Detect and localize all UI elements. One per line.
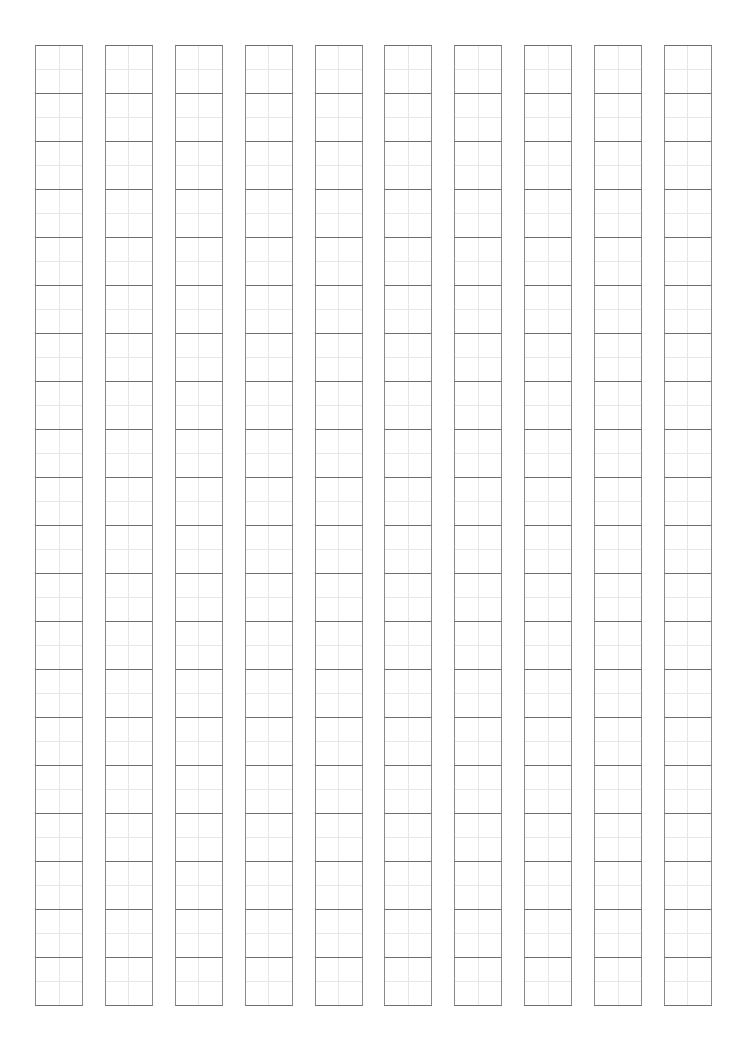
manuscript-cell[interactable] bbox=[664, 381, 712, 429]
manuscript-cell[interactable] bbox=[35, 813, 83, 861]
manuscript-cell[interactable] bbox=[594, 45, 642, 93]
manuscript-cell[interactable] bbox=[594, 141, 642, 189]
manuscript-cell[interactable] bbox=[105, 909, 153, 957]
manuscript-cell[interactable] bbox=[524, 525, 572, 573]
manuscript-cell[interactable] bbox=[524, 141, 572, 189]
manuscript-cell[interactable] bbox=[175, 813, 223, 861]
manuscript-cell[interactable] bbox=[384, 189, 432, 237]
manuscript-cell[interactable] bbox=[454, 333, 502, 381]
manuscript-cell[interactable] bbox=[105, 189, 153, 237]
manuscript-cell[interactable] bbox=[245, 189, 293, 237]
manuscript-cell[interactable] bbox=[384, 669, 432, 717]
manuscript-cell[interactable] bbox=[315, 237, 363, 285]
manuscript-cell[interactable] bbox=[384, 285, 432, 333]
manuscript-cell[interactable] bbox=[594, 381, 642, 429]
manuscript-cell[interactable] bbox=[175, 93, 223, 141]
manuscript-cell[interactable] bbox=[664, 861, 712, 909]
manuscript-cell[interactable] bbox=[315, 813, 363, 861]
manuscript-cell[interactable] bbox=[315, 621, 363, 669]
manuscript-cell[interactable] bbox=[664, 285, 712, 333]
writing-column-5[interactable] bbox=[315, 45, 363, 1006]
manuscript-cell[interactable] bbox=[35, 237, 83, 285]
manuscript-cell[interactable] bbox=[105, 957, 153, 1006]
manuscript-cell[interactable] bbox=[524, 621, 572, 669]
manuscript-cell[interactable] bbox=[454, 477, 502, 525]
manuscript-cell[interactable] bbox=[35, 717, 83, 765]
manuscript-cell[interactable] bbox=[175, 189, 223, 237]
manuscript-cell[interactable] bbox=[175, 717, 223, 765]
manuscript-cell[interactable] bbox=[524, 765, 572, 813]
manuscript-cell[interactable] bbox=[175, 381, 223, 429]
manuscript-cell[interactable] bbox=[664, 45, 712, 93]
manuscript-cell[interactable] bbox=[245, 285, 293, 333]
manuscript-cell[interactable] bbox=[35, 621, 83, 669]
manuscript-cell[interactable] bbox=[245, 669, 293, 717]
writing-column-2[interactable] bbox=[105, 45, 153, 1006]
manuscript-cell[interactable] bbox=[245, 957, 293, 1006]
manuscript-cell[interactable] bbox=[594, 525, 642, 573]
manuscript-cell[interactable] bbox=[594, 669, 642, 717]
manuscript-cell[interactable] bbox=[454, 525, 502, 573]
manuscript-cell[interactable] bbox=[664, 477, 712, 525]
manuscript-cell[interactable] bbox=[524, 813, 572, 861]
manuscript-cell[interactable] bbox=[315, 93, 363, 141]
writing-column-1[interactable] bbox=[35, 45, 83, 1006]
manuscript-cell[interactable] bbox=[454, 813, 502, 861]
manuscript-cell[interactable] bbox=[384, 957, 432, 1006]
manuscript-cell[interactable] bbox=[175, 573, 223, 621]
manuscript-cell[interactable] bbox=[664, 669, 712, 717]
manuscript-cell[interactable] bbox=[35, 381, 83, 429]
manuscript-cell[interactable] bbox=[454, 669, 502, 717]
manuscript-cell[interactable] bbox=[35, 573, 83, 621]
manuscript-cell[interactable] bbox=[524, 429, 572, 477]
manuscript-cell[interactable] bbox=[454, 285, 502, 333]
manuscript-cell[interactable] bbox=[35, 429, 83, 477]
manuscript-cell[interactable] bbox=[245, 429, 293, 477]
manuscript-cell[interactable] bbox=[664, 621, 712, 669]
manuscript-cell[interactable] bbox=[35, 285, 83, 333]
manuscript-cell[interactable] bbox=[384, 525, 432, 573]
manuscript-cell[interactable] bbox=[594, 957, 642, 1006]
manuscript-cell[interactable] bbox=[524, 285, 572, 333]
manuscript-cell[interactable] bbox=[35, 525, 83, 573]
manuscript-cell[interactable] bbox=[245, 477, 293, 525]
manuscript-cell[interactable] bbox=[105, 573, 153, 621]
manuscript-cell[interactable] bbox=[594, 285, 642, 333]
manuscript-cell[interactable] bbox=[105, 861, 153, 909]
manuscript-cell[interactable] bbox=[664, 813, 712, 861]
manuscript-cell[interactable] bbox=[524, 45, 572, 93]
manuscript-cell[interactable] bbox=[35, 909, 83, 957]
manuscript-cell[interactable] bbox=[105, 285, 153, 333]
manuscript-cell[interactable] bbox=[315, 285, 363, 333]
manuscript-cell[interactable] bbox=[175, 45, 223, 93]
writing-column-8[interactable] bbox=[524, 45, 572, 1006]
manuscript-cell[interactable] bbox=[315, 429, 363, 477]
manuscript-cell[interactable] bbox=[524, 333, 572, 381]
manuscript-cell[interactable] bbox=[315, 381, 363, 429]
manuscript-cell[interactable] bbox=[105, 333, 153, 381]
manuscript-cell[interactable] bbox=[315, 669, 363, 717]
manuscript-cell[interactable] bbox=[105, 45, 153, 93]
manuscript-cell[interactable] bbox=[384, 333, 432, 381]
manuscript-cell[interactable] bbox=[245, 717, 293, 765]
manuscript-cell[interactable] bbox=[175, 957, 223, 1006]
manuscript-cell[interactable] bbox=[384, 621, 432, 669]
manuscript-cell[interactable] bbox=[664, 141, 712, 189]
manuscript-cell[interactable] bbox=[384, 861, 432, 909]
manuscript-cell[interactable] bbox=[664, 909, 712, 957]
manuscript-cell[interactable] bbox=[524, 189, 572, 237]
manuscript-cell[interactable] bbox=[105, 477, 153, 525]
manuscript-cell[interactable] bbox=[315, 45, 363, 93]
manuscript-cell[interactable] bbox=[175, 285, 223, 333]
manuscript-cell[interactable] bbox=[175, 909, 223, 957]
manuscript-cell[interactable] bbox=[524, 381, 572, 429]
manuscript-cell[interactable] bbox=[315, 141, 363, 189]
manuscript-cell[interactable] bbox=[105, 765, 153, 813]
manuscript-cell[interactable] bbox=[524, 861, 572, 909]
manuscript-cell[interactable] bbox=[454, 957, 502, 1006]
manuscript-cell[interactable] bbox=[454, 765, 502, 813]
manuscript-cell[interactable] bbox=[524, 573, 572, 621]
manuscript-cell[interactable] bbox=[245, 813, 293, 861]
manuscript-cell[interactable] bbox=[594, 621, 642, 669]
manuscript-cell[interactable] bbox=[594, 813, 642, 861]
